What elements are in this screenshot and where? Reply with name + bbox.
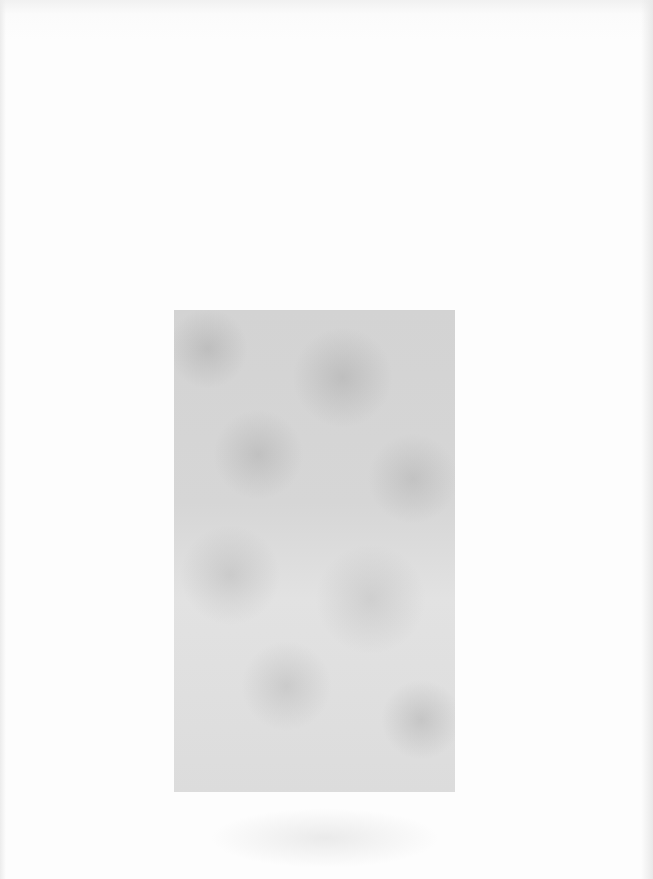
scanned-page bbox=[0, 0, 653, 879]
page-edge-shadow-left bbox=[0, 0, 6, 879]
page-edge-shadow-right bbox=[641, 0, 653, 879]
bleed-through-smudge bbox=[210, 808, 440, 868]
gray-plate-figure bbox=[174, 310, 455, 792]
